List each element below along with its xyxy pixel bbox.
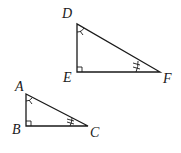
vertex-label-b: B bbox=[12, 122, 21, 137]
angle-arc-c bbox=[70, 118, 72, 126]
vertex-label-e: E bbox=[62, 70, 72, 85]
angle-tick-c-1 bbox=[67, 119, 74, 121]
right-angle-marker-e bbox=[77, 67, 82, 72]
angle-tick-a bbox=[29, 100, 32, 104]
vertex-label-d: D bbox=[61, 6, 72, 21]
similar-triangles-diagram: D E F A B C bbox=[0, 0, 181, 153]
vertex-label-a: A bbox=[14, 79, 24, 94]
triangle-def: D E F bbox=[61, 6, 172, 86]
angle-tick-f-2 bbox=[133, 67, 140, 69]
triangle-def-outline bbox=[77, 24, 160, 72]
angle-tick-c-2 bbox=[67, 122, 74, 124]
angle-tick-f-1 bbox=[133, 63, 140, 65]
angle-arc-f bbox=[136, 61, 138, 72]
vertex-label-f: F bbox=[162, 71, 172, 86]
triangle-abc-outline bbox=[26, 94, 88, 126]
right-angle-marker-b bbox=[26, 121, 31, 126]
vertex-label-c: C bbox=[90, 125, 100, 140]
angle-tick-d bbox=[80, 31, 83, 35]
triangle-abc: A B C bbox=[12, 79, 100, 140]
